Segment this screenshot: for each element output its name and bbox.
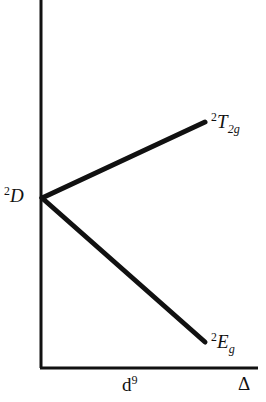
- term-subscript: 2g: [228, 122, 240, 136]
- term-label-ground-2d: 2D: [4, 186, 24, 205]
- term-symbol: E: [217, 331, 229, 352]
- configuration-label-d9: d9: [122, 374, 138, 394]
- term-subscript: g: [229, 342, 235, 356]
- term-line-eg: [42, 198, 205, 342]
- term-symbol: T: [217, 111, 228, 132]
- term-lines-group: [42, 122, 205, 342]
- term-label-lower-2eg: 2Eg: [211, 332, 235, 355]
- term-label-upper-2t2g: 2T2g: [211, 112, 240, 135]
- term-symbol: D: [10, 185, 24, 206]
- orgel-diagram-figure: 2D 2T2g 2Eg d9 Δ: [0, 0, 266, 402]
- delta-symbol: Δ: [238, 373, 250, 394]
- term-line-t2g: [42, 122, 205, 198]
- x-axis-label-delta: Δ: [238, 374, 250, 393]
- configuration-letter: d: [122, 374, 132, 395]
- configuration-exponent: 9: [132, 373, 138, 387]
